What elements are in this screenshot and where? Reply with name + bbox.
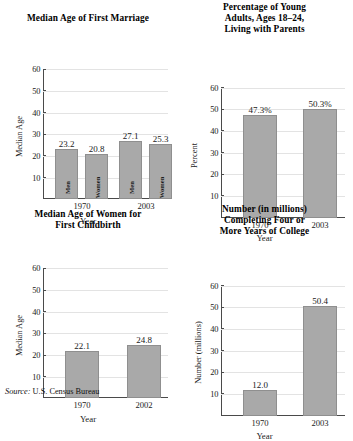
bars: 47.3% 50.3% (221, 88, 345, 218)
y-tick-label: 10 (32, 372, 43, 381)
chart-title: Percentage of Young Adults, Ages 18–24, … (176, 0, 353, 36)
y-tick-label: 30 (210, 346, 221, 355)
chart-title: Median Age of First Marriage (0, 0, 176, 24)
bar-1970-women[interactable]: 20.8 Women (85, 154, 108, 199)
x-tick-label: 1970 (73, 400, 90, 410)
bar-value-label: 25.3 (153, 134, 169, 144)
x-axis-label: Year (0, 414, 176, 424)
source-attribution: Source: U.S. Census Bureau (5, 387, 99, 396)
bars: 12.0 50.4 (221, 286, 345, 416)
bar-value-label: 12.0 (252, 380, 268, 390)
bar-1970[interactable]: 12.0 (243, 390, 277, 416)
y-tick-label: 60 (32, 264, 43, 273)
bar-1970-men[interactable]: 23.2 Men (55, 149, 78, 199)
y-tick-label: 20 (210, 170, 221, 179)
chart-title-line: Percentage of Young (184, 2, 345, 13)
bar-value-label: 50.4 (312, 296, 328, 306)
y-tick-label: 40 (210, 324, 221, 333)
bar-value-label: 22.1 (74, 341, 90, 351)
chart-title-line: Number (in millions) (184, 204, 345, 215)
bar-value-label: 23.2 (59, 139, 75, 149)
y-tick-label: 40 (210, 126, 221, 135)
bars: 23.2 Men 20.8 Women 27.1 Men 25.3 Women (43, 69, 168, 199)
y-tick-label: 20 (210, 368, 221, 377)
y-tick-label: 60 (210, 83, 221, 92)
chart-title-line: Adults, Ages 18–24, (184, 13, 345, 24)
y-tick-label: 20 (32, 151, 43, 160)
y-tick-label: 30 (32, 329, 43, 338)
bar-value-label: 27.1 (123, 131, 139, 141)
chart-title-line: More Years of College (184, 226, 345, 237)
y-tick-label: 20 (32, 351, 43, 360)
chart-panel-four-or-more-years-college: Number (in millions) Completing Four or … (176, 200, 353, 399)
chart-title-line: Living with Parents (184, 24, 345, 35)
y-axis-label: Median Age (15, 301, 24, 371)
y-tick-label: 50 (32, 286, 43, 295)
bar-value-label: 50.3% (308, 99, 331, 109)
y-tick-label: 10 (210, 389, 221, 398)
x-tick-label: 1970 (251, 418, 268, 428)
bars: 22.1 24.8 (43, 268, 168, 398)
axes: 60 50 40 30 20 10 47.3% 50.3% 1970 20 (221, 88, 345, 218)
bar-value-label: 47.3% (248, 105, 271, 115)
y-tick-label: 40 (32, 307, 43, 316)
bar-2002[interactable]: 24.8 (127, 345, 161, 399)
axes: 60 50 40 30 20 10 23.2 Men 20.8 Women (43, 69, 168, 199)
bar-value-label: 20.8 (89, 144, 105, 154)
y-axis-label: Number (millions) (194, 305, 203, 400)
y-axis-label: Median Age (15, 102, 24, 172)
bar-2003-women[interactable]: 25.3 Women (149, 144, 172, 199)
bar-series-label: Women (93, 177, 100, 199)
bar-series-label: Women (157, 177, 164, 199)
x-axis-label: Year (176, 431, 353, 441)
chart-title-line: Completing Four or (184, 215, 345, 226)
y-tick-label: 30 (210, 148, 221, 157)
bar-2003[interactable]: 50.4 (303, 306, 337, 415)
source-prefix: Source: (5, 387, 31, 396)
y-axis-label: Percent (190, 125, 199, 185)
bar-2003-men[interactable]: 27.1 Men (119, 141, 142, 200)
x-tick-label: 2003 (311, 418, 328, 428)
source-text: U.S. Census Bureau (33, 387, 100, 396)
chart-panel-median-age-women-first-childbirth: Median Age of Women for First Childbirth… (0, 200, 176, 399)
chart-title-line: First Childbirth (8, 220, 168, 231)
chart-panel-young-adults-living-with-parents: Percentage of Young Adults, Ages 18–24, … (176, 0, 353, 200)
y-tick-label: 10 (32, 173, 43, 182)
y-tick-label: 30 (32, 130, 43, 139)
bar-series-label: Men (127, 181, 134, 194)
chart-panel-median-age-first-marriage: Median Age of First Marriage Median Age … (0, 0, 176, 200)
x-tick-label: 2002 (135, 400, 152, 410)
bar-series-label: Men (63, 181, 70, 194)
y-tick-label: 50 (210, 303, 221, 312)
y-tick-label: 40 (32, 108, 43, 117)
y-tick-label: 60 (32, 65, 43, 74)
y-tick-label: 50 (32, 86, 43, 95)
axes: 60 50 40 30 20 10 12.0 50.4 1970 2003 (221, 286, 345, 416)
y-tick-label: 60 (210, 281, 221, 290)
chart-title: Median Age of Women for First Childbirth (0, 200, 176, 231)
chart-title-line: Median Age of Women for (8, 209, 168, 220)
axes: 60 50 40 30 20 10 22.1 24.8 1970 2002 (43, 268, 168, 398)
y-tick-label: 50 (210, 105, 221, 114)
bar-value-label: 24.8 (136, 335, 152, 345)
chart-title: Number (in millions) Completing Four or … (176, 200, 353, 238)
